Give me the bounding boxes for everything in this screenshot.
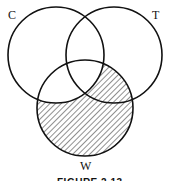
label-t: T bbox=[152, 8, 160, 22]
venn-diagram: C T W FIGURE 2.13 bbox=[0, 0, 173, 181]
label-c: C bbox=[8, 8, 16, 22]
label-w: W bbox=[80, 159, 92, 173]
figure-caption: FIGURE 2.13 bbox=[57, 177, 123, 181]
